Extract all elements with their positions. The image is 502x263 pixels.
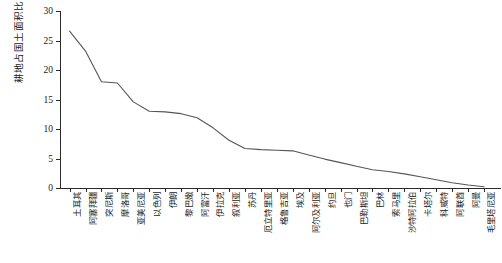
x-axis-labels: 土耳其阿塞拜疆突尼斯摩洛哥亚美尼亚以色列伊朗黎巴嫩阿富汗伊拉克叙利亚苏丹厄立特里… [60, 192, 501, 263]
x-axis-label: 沙特阿拉伯 [408, 192, 417, 233]
x-axis-label: 摩洛哥 [121, 192, 130, 217]
x-axis-label: 以色列 [153, 192, 162, 217]
y-axis-tick-label: 10 [44, 124, 54, 134]
y-axis-title: 耕地占国土面积比例/% [11, 0, 25, 111]
x-axis-label: 阿富汗 [201, 192, 210, 217]
x-axis-label: 索马里 [392, 192, 401, 217]
x-axis-label: 叙利亚 [232, 192, 241, 217]
x-axis-label: 阿联酋 [456, 192, 465, 217]
x-axis-label: 约旦 [328, 192, 337, 208]
y-axis-tick-label: 15 [44, 95, 54, 105]
x-axis-label: 埃及 [296, 192, 305, 208]
x-axis-label: 也门 [344, 192, 353, 208]
series-svg [60, 11, 500, 188]
y-axis-tick [56, 188, 60, 189]
x-axis-label: 格鲁吉亚 [280, 192, 289, 225]
x-axis-label: 土耳其 [73, 192, 82, 217]
x-axis-label: 突尼斯 [105, 192, 114, 217]
y-axis-tick-label: 0 [48, 183, 53, 193]
y-axis-tick-label: 20 [44, 65, 54, 75]
x-axis-label: 苏丹 [248, 192, 257, 208]
x-axis-line [60, 188, 501, 189]
y-axis-tick-label: 25 [44, 36, 54, 46]
x-axis-label: 巴勒斯坦 [360, 192, 369, 225]
arable-land-line-chart: 耕地占国土面积比例/% 051015202530 土耳其阿塞拜疆突尼斯摩洛哥亚美… [0, 0, 502, 263]
x-axis-label: 伊拉克 [216, 192, 225, 217]
x-axis-label: 阿尔及利亚 [312, 192, 321, 233]
y-axis-tick-label: 5 [48, 154, 53, 164]
y-axis-tick-label: 30 [44, 6, 54, 16]
x-axis-label: 巴林 [376, 192, 385, 208]
x-axis-label: 阿曼 [472, 192, 481, 208]
x-axis-label: 黎巴嫩 [185, 192, 194, 217]
x-axis-label: 毛里塔尼亚 [487, 192, 496, 233]
x-axis-label: 厄立特里亚 [264, 192, 273, 233]
x-axis-label: 科威特 [440, 192, 449, 217]
x-axis-label: 卡塔尔 [424, 192, 433, 217]
series-line [70, 31, 484, 187]
x-axis-label: 阿塞拜疆 [89, 192, 98, 225]
x-axis-label: 伊朗 [169, 192, 178, 208]
x-axis-label: 亚美尼亚 [137, 192, 146, 225]
plot-area: 051015202530 [60, 11, 500, 188]
